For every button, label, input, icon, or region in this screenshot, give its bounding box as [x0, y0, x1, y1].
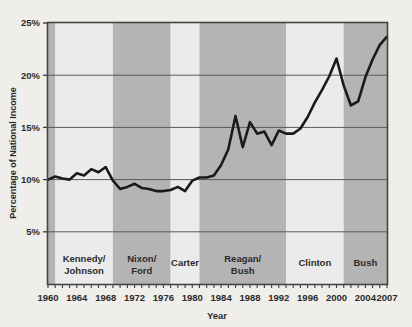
x-axis-tick-label: 1992 — [268, 292, 289, 303]
y-axis-tick-label: 20% — [21, 70, 41, 81]
x-axis-tick-label: 2000 — [326, 292, 347, 303]
era-label: Bush — [231, 265, 255, 276]
y-axis-tick-label: 15% — [21, 122, 41, 133]
x-axis-tick-label: 1968 — [95, 292, 116, 303]
era-label: Clinton — [299, 257, 332, 268]
x-axis-tick-label: 1984 — [211, 292, 233, 303]
x-axis-tick-label: 1964 — [66, 292, 88, 303]
x-axis-tick-label: 2007 — [376, 292, 397, 303]
x-axis-tick-label: 1960 — [37, 292, 58, 303]
era-band — [113, 23, 171, 284]
y-axis-tick-label: 25% — [21, 17, 41, 28]
x-axis-tick-label: 2004 — [355, 292, 377, 303]
x-axis-tick-label: 1976 — [153, 292, 174, 303]
x-axis-tick-label: 1972 — [124, 292, 145, 303]
y-axis-title: Percentage of National Income — [8, 87, 18, 219]
era-band — [344, 23, 387, 284]
era-band — [199, 23, 286, 284]
era-label: Ford — [131, 265, 152, 276]
era-label: Nixon/ — [127, 253, 156, 264]
era-label: Bush — [353, 257, 377, 268]
era-label: Carter — [171, 257, 199, 268]
x-axis-title: Year — [207, 310, 227, 321]
y-axis-tick-label: 5% — [26, 226, 40, 237]
era-label: Kennedy/ — [63, 253, 106, 264]
income-share-line-chart: 5%10%15%20%25% 1960196419681972197619801… — [0, 0, 412, 327]
x-axis-tick-label: 1996 — [297, 292, 318, 303]
era-band — [48, 23, 55, 284]
era-label: Reagan/ — [224, 253, 261, 264]
era-band — [55, 23, 113, 284]
era-label: Johnson — [64, 265, 104, 276]
era-band — [171, 23, 200, 284]
chart-container: 5%10%15%20%25% 1960196419681972197619801… — [0, 0, 412, 327]
x-axis-tick-label: 1980 — [182, 292, 203, 303]
x-axis-tick-label: 1988 — [239, 292, 260, 303]
y-axis-tick-label: 10% — [21, 174, 41, 185]
